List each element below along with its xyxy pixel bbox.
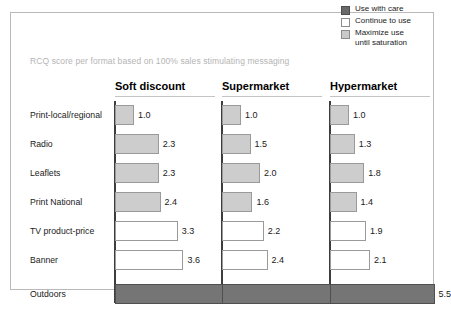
bar	[115, 221, 178, 241]
bar-value-label: 3.3	[182, 226, 195, 236]
bar-value-label: 1.9	[370, 226, 383, 236]
bar-value-label: 1.4	[361, 197, 374, 207]
legend-item-label: Use with care	[355, 4, 403, 14]
bar	[115, 134, 159, 154]
bar	[222, 105, 241, 125]
bar	[222, 221, 264, 241]
chart-subtitle: RCQ score per format based on 100% sales…	[30, 56, 289, 66]
bar	[330, 221, 366, 241]
bar	[115, 284, 239, 304]
bar-value-label: 2.4	[272, 255, 285, 265]
bar-value-label: 3.6	[187, 255, 200, 265]
bar-value-label: 1.6	[256, 197, 269, 207]
column-header: Hypermarket	[330, 80, 397, 92]
bar-value-label: 1.0	[138, 110, 151, 120]
bar-value-label: 1.8	[368, 168, 381, 178]
chart-legend: Use with careContinue to useMaximize use…	[341, 4, 451, 48]
bar	[222, 284, 342, 304]
bar	[222, 163, 260, 183]
legend-item: Use with care	[341, 4, 451, 15]
bar	[330, 192, 357, 212]
chart-frame: RCQ score per format based on 100% sales…	[10, 12, 434, 290]
bar	[222, 134, 251, 154]
legend-item-label: Continue to use	[355, 16, 411, 26]
light-gray-swatch-icon	[341, 30, 350, 39]
bar	[330, 250, 370, 270]
row-label: Print-local/regional	[30, 110, 102, 120]
bar-value-label: 5.5	[439, 289, 451, 299]
column-header: Supermarket	[222, 80, 289, 92]
bar	[330, 284, 435, 304]
bar-value-label: 2.3	[163, 139, 176, 149]
bar	[115, 192, 161, 212]
bar	[330, 134, 355, 154]
dark-gray-swatch-icon	[341, 6, 350, 15]
bar-value-label: 2.1	[374, 255, 387, 265]
row-label: Print National	[30, 197, 82, 207]
bar-value-label: 2.3	[163, 168, 176, 178]
bar	[115, 250, 183, 270]
bar	[222, 250, 268, 270]
bar	[115, 163, 159, 183]
legend-item-label: Maximize use until saturation	[355, 28, 407, 47]
row-label: Outdoors	[30, 289, 66, 299]
bar-value-label: 1.3	[359, 139, 372, 149]
column-header-rule	[115, 96, 215, 97]
bar	[330, 163, 364, 183]
column-header-rule	[330, 96, 430, 97]
bar	[330, 105, 349, 125]
bar-value-label: 2.2	[268, 226, 281, 236]
row-label: TV product-price	[30, 226, 94, 236]
bar-value-label: 2.0	[264, 168, 277, 178]
bar-value-label: 2.4	[165, 197, 178, 207]
column-header: Soft discount	[115, 80, 185, 92]
legend-item: Maximize use until saturation	[341, 28, 451, 47]
bar-value-label: 1.0	[245, 110, 258, 120]
bar-value-label: 1.0	[353, 110, 366, 120]
row-label: Radio	[30, 139, 53, 149]
white-swatch-icon	[341, 18, 350, 27]
bar-value-label: 1.5	[255, 139, 268, 149]
legend-item: Continue to use	[341, 16, 451, 27]
column-header-rule	[222, 96, 322, 97]
bar	[115, 105, 134, 125]
bar	[222, 192, 252, 212]
row-label: Leaflets	[30, 168, 60, 178]
row-label: Banner	[30, 255, 58, 265]
